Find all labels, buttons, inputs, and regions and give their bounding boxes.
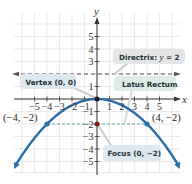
point-label-left: (−4, −2) xyxy=(3,112,38,124)
y-axis-arrow-icon xyxy=(95,17,100,24)
y-tick-label: 1 xyxy=(89,81,94,92)
x-axis-arrow-icon xyxy=(174,97,181,102)
y-axis-label: y xyxy=(93,5,99,17)
directrix-arrow-right-icon xyxy=(174,72,181,76)
focus-pointer xyxy=(98,125,112,147)
latus-rectum-label: Latus Rectum xyxy=(122,80,177,89)
parabola-chart: −5−4−3−2−1123455431−1−2−3−4−5 Directrix:… xyxy=(0,0,192,184)
directrix-arrow-left-icon xyxy=(12,72,19,76)
x-axis-label: x xyxy=(181,93,187,105)
directrix-label: Directrix: y = 2 xyxy=(119,52,180,62)
y-tick-label: 5 xyxy=(89,31,94,42)
y-tick-label: −5 xyxy=(83,156,94,167)
directrix-pointer xyxy=(113,63,128,75)
vertex-callout: Vertex (0, 0) xyxy=(20,74,76,89)
focus-label: Focus (0, −2) xyxy=(108,149,162,158)
x-tick-label: 2 xyxy=(120,101,125,112)
focus-point xyxy=(95,122,100,127)
x-tick-label: 3 xyxy=(132,101,137,112)
focus-callout: Focus (0, −2) xyxy=(103,145,161,161)
vertex-point xyxy=(95,97,100,102)
y-tick-label: −2 xyxy=(83,119,94,130)
x-tick-label: −2 xyxy=(67,101,78,112)
x-tick-label: 1 xyxy=(107,101,112,112)
latus-right-point xyxy=(145,122,150,127)
latus-rectum-callout: Latus Rectum xyxy=(114,76,177,91)
x-tick-label: −3 xyxy=(54,101,65,112)
x-tick-label: 4 xyxy=(145,101,150,112)
x-tick-label: −4 xyxy=(42,101,53,112)
y-tick-label: −1 xyxy=(83,106,94,117)
x-tick-label: 5 xyxy=(157,101,162,112)
directrix-callout: Directrix: y = 2 xyxy=(113,49,185,64)
x-tick-label: −5 xyxy=(29,101,40,112)
y-tick-label: −3 xyxy=(83,131,94,142)
point-label-right: (4, −2) xyxy=(152,112,181,124)
y-tick-label: 4 xyxy=(89,44,94,55)
y-tick-label: 3 xyxy=(89,56,94,67)
latus-left-point xyxy=(45,122,50,127)
vertex-label: Vertex (0, 0) xyxy=(26,78,77,87)
y-tick-label: −4 xyxy=(83,144,94,155)
